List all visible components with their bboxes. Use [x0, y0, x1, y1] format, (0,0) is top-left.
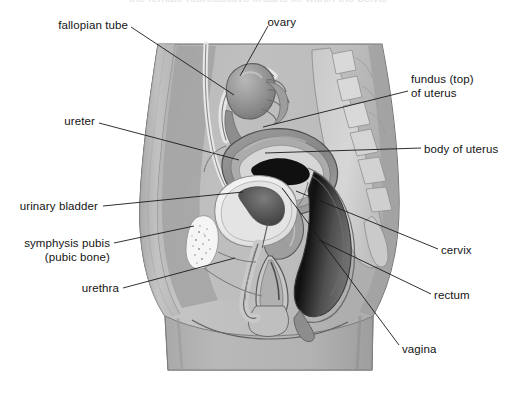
label-urethra: urethra: [0, 281, 119, 295]
anatomy-figure: the female reproductive organs lie withi…: [0, 0, 516, 410]
urinary-bladder-group: [215, 176, 298, 249]
vertebra-1: [332, 50, 356, 74]
label-fundus-of-uterus: fundus (top) of uterus: [411, 72, 474, 100]
label-body-of-uterus: body of uterus: [424, 142, 498, 156]
label-cervix: cervix: [441, 243, 472, 257]
vertebra-2: [337, 76, 362, 101]
label-ovary: ovary: [0, 15, 296, 29]
label-vagina: vagina: [402, 342, 437, 356]
label-rectum: rectum: [434, 288, 470, 302]
label-urinary-bladder: urinary bladder: [0, 199, 98, 213]
label-ureter: ureter: [0, 114, 95, 128]
label-symphysis-pubis: symphysis pubis (pubic bone): [0, 236, 110, 264]
